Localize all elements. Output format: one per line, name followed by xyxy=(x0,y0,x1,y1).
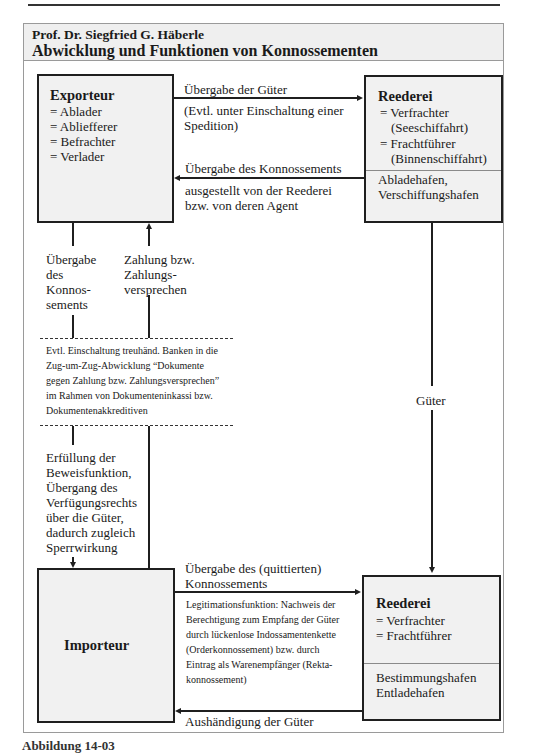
goods-delivery-label: Aushändigung der Güter xyxy=(185,715,314,730)
bl-to-bank-label: Konnos- xyxy=(46,283,91,298)
figure-caption: Abbildung 14-03 xyxy=(22,738,115,754)
bank-note: im Rahmen von Dokumenteninkassi bzw. xyxy=(46,388,213,403)
reederei-bottom-divider xyxy=(364,663,499,664)
bl-to-bank-line-lower xyxy=(72,315,74,338)
arrow-up-icon xyxy=(146,223,152,229)
bl-to-bank-label: sements xyxy=(46,298,88,313)
legitimation-note: Berechtigung zum Empfang der Güter xyxy=(186,612,339,627)
function-note: dadurch zugleich xyxy=(46,526,135,541)
function-note: Beweisfunktion, xyxy=(46,466,132,481)
goods-vertical-label: Güter xyxy=(416,392,446,411)
arrow-right-icon xyxy=(355,589,361,595)
top-rule xyxy=(28,4,500,6)
payment-label: Zahlung bzw. xyxy=(124,253,195,268)
goods-delivery-line xyxy=(181,710,362,712)
arrow-down-icon xyxy=(429,567,435,573)
arrow-left-icon xyxy=(174,175,180,181)
payment-line-lower xyxy=(148,295,150,338)
bl-handover-bottom-label: Übergabe des (quittierten) xyxy=(185,562,321,577)
reederei-top-port: Verschiffungshafen xyxy=(378,188,479,203)
goods-vertical-line-upper xyxy=(431,223,433,386)
exporteur-title: Exporteur xyxy=(50,88,114,103)
payment-line-upper xyxy=(148,229,150,246)
function-note: Übergang des xyxy=(46,481,118,496)
bl-handover-bottom-line xyxy=(175,591,355,593)
goods-handover-label: Übergabe der Güter xyxy=(184,83,287,98)
bank-note: Evtl. Einschaltung treuhänd. Banken in d… xyxy=(46,343,218,358)
legitimation-note: Legitimationsfunktion: Nachweis der xyxy=(186,597,335,612)
goods-handover-note: (Evtl. unter Einschaltung einer xyxy=(184,104,344,119)
diagram-title: Abwicklung und Funktionen von Konnosseme… xyxy=(32,42,378,60)
function-note: Sperrwirkung xyxy=(46,541,118,556)
reederei-top-role: = Frachtführer xyxy=(380,137,456,152)
reederei-top-role: (Binnenschiffahrt) xyxy=(391,152,487,167)
function-line-upper xyxy=(72,426,74,445)
reederei-bottom-role: = Verfrachter xyxy=(376,614,445,629)
reederei-top-role: = Verfrachter xyxy=(380,106,449,121)
function-note: über die Güter, xyxy=(46,511,124,526)
bl-to-bank-line-upper xyxy=(72,223,74,246)
function-note: Erfüllung der xyxy=(46,451,116,466)
bl-handover-note: bzw. von deren Agent xyxy=(185,199,298,214)
author: Prof. Dr. Siegfried G. Häberle xyxy=(32,27,204,43)
reederei-top-role: (Seeschiffahrt) xyxy=(391,121,468,136)
payment-label: Zahlungs- xyxy=(124,268,177,283)
reederei-top-port: Abladehafen, xyxy=(378,173,448,188)
arrow-left-icon xyxy=(175,708,181,714)
legitimation-note: konnossement) xyxy=(186,672,247,687)
bl-handover-bottom-label: Konnossements xyxy=(185,577,267,592)
payment-line-bottom xyxy=(148,426,150,568)
legitimation-note: durch lückenlose Indossamentenkette xyxy=(186,627,336,642)
bl-to-bank-label: des xyxy=(46,268,63,283)
exporteur-role: = Ablader xyxy=(50,105,102,120)
bl-to-bank-label: Übergabe xyxy=(46,253,96,268)
reederei-bottom-port: Entladehafen xyxy=(376,686,445,701)
reederei-bottom-title: Reederei xyxy=(376,596,430,611)
exporteur-role: = Befrachter xyxy=(50,135,115,150)
payment-label: versprechen xyxy=(124,283,187,298)
bank-note: Dokumentenakkreditiven xyxy=(46,403,148,418)
reederei-bottom-role: = Frachtführer xyxy=(376,629,452,644)
function-note: Verfügungsrechts xyxy=(46,496,137,511)
goods-vertical-line-lower xyxy=(431,410,433,568)
bl-handover-note: ausgestellt von der Reederei xyxy=(185,184,332,199)
bank-section-top-dash xyxy=(40,338,233,339)
exporteur-role: = Verlader xyxy=(50,150,104,165)
reederei-top-title: Reederei xyxy=(378,89,432,104)
goods-handover-note: Spedition) xyxy=(184,119,238,134)
importeur-title: Importeur xyxy=(64,638,129,653)
goods-handover-arrow-line xyxy=(174,97,357,99)
reederei-top-divider xyxy=(366,170,501,171)
bl-handover-label: Übergabe des Konnossements xyxy=(185,162,341,177)
legitimation-note: (Orderkonnossement) bzw. durch xyxy=(186,642,319,657)
arrow-right-icon xyxy=(357,95,363,101)
reederei-bottom-port: Bestimmungshafen xyxy=(376,671,476,686)
bank-note: Zug-um-Zug-Abwicklung “Dokumente xyxy=(46,358,204,373)
bl-handover-arrow-line xyxy=(180,177,364,179)
bank-note: gegen Zahlung bzw. Zahlungsversprechen” xyxy=(46,373,219,388)
bank-section-bottom-dash xyxy=(40,425,233,426)
exporteur-role: = Abliefferer xyxy=(50,120,117,135)
legitimation-note: Eintrag als Warenempfänger (Rekta- xyxy=(186,657,332,672)
